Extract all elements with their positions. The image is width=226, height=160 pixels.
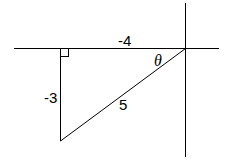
diagram-canvas: -4 θ -3 5 xyxy=(0,0,226,160)
hypotenuse-label: 5 xyxy=(119,96,127,113)
horizontal-leg-label: -4 xyxy=(118,32,131,49)
hypotenuse xyxy=(61,49,186,142)
angle-label: θ xyxy=(154,52,162,69)
vertical-leg-label: -3 xyxy=(44,89,57,106)
right-angle-marker xyxy=(61,49,69,57)
